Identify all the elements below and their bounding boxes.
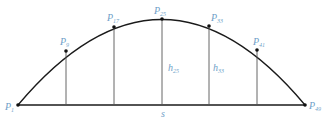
point-labels: P1P9P17P25P33P41P49h25h33s	[4, 5, 321, 119]
label-p17: P17	[106, 12, 120, 24]
label-p1: P1	[4, 101, 14, 113]
point-p1-dot	[16, 103, 20, 107]
point-p41-dot	[255, 48, 259, 52]
point-p17-dot	[112, 25, 116, 29]
label-p25: P25	[153, 5, 166, 17]
label-p33: P33	[210, 12, 223, 24]
point-p9-dot	[64, 49, 68, 53]
label-h25: h25	[168, 62, 179, 74]
point-p33-dot	[207, 24, 211, 28]
point-p49-dot	[303, 103, 307, 107]
label-chord-s: s	[161, 108, 165, 119]
arc-curve	[18, 20, 305, 106]
point-p25-dot	[160, 17, 164, 21]
label-p49: P49	[308, 100, 321, 112]
arc-diagram: P1P9P17P25P33P41P49h25h33s	[0, 0, 326, 127]
label-h33: h33	[213, 62, 224, 74]
label-p9: P9	[59, 36, 69, 48]
label-p41: P41	[252, 36, 265, 48]
height-lines	[66, 19, 257, 105]
